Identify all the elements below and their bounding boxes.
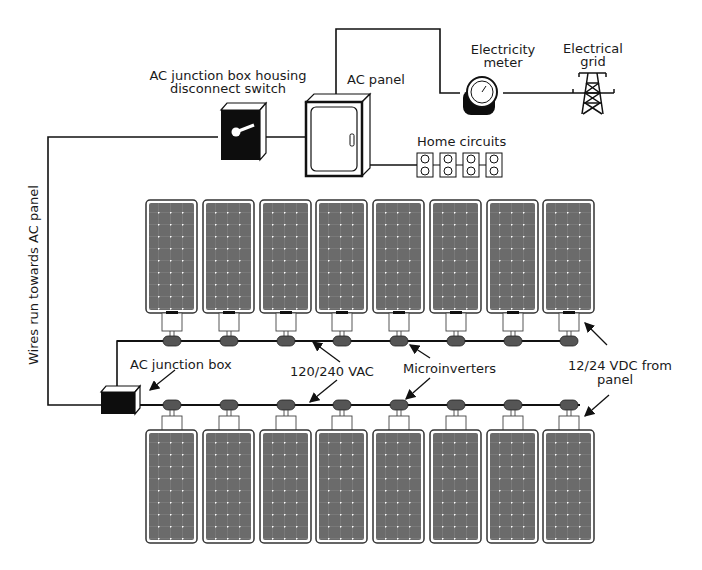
vdc-label-line2: panel [597, 372, 633, 387]
ac-disconnect-box [221, 103, 266, 160]
microinverters-label: Microinverters [403, 361, 496, 376]
ac-panel-label: AC panel [347, 72, 405, 87]
ac-junction-box [101, 386, 140, 414]
arrow-microinverter-top-icon [410, 345, 430, 358]
arrow-vdc-top-icon [585, 323, 607, 345]
wires-run-label: Wires run towards AC panel [26, 185, 41, 365]
solar-microinverter-diagram: AC junction box housing disconnect switc… [0, 0, 702, 570]
ac-junction-box-label: AC junction box [130, 357, 232, 372]
transmission-tower-icon [573, 73, 614, 114]
ac-panel [306, 94, 370, 176]
arrow-microinverter-bottom-icon [406, 378, 430, 399]
grid-label-line2: grid [580, 54, 605, 69]
home-circuits-label: Home circuits [417, 134, 506, 149]
top-panel-row [146, 200, 594, 313]
disconnect-label-line2: disconnect switch [170, 81, 286, 96]
arrow-vdc-bottom-icon [585, 395, 609, 416]
bottom-panel-row [146, 430, 594, 543]
meter-label-line2: meter [483, 55, 523, 70]
home-circuits-outlets [417, 153, 502, 177]
arrow-vac-bottom-icon [310, 380, 337, 402]
arrow-junction-box-icon [150, 370, 175, 390]
electricity-meter [463, 77, 497, 115]
vac-label: 120/240 VAC [290, 364, 374, 379]
vdc-label-line1: 12/24 VDC from [568, 358, 672, 373]
